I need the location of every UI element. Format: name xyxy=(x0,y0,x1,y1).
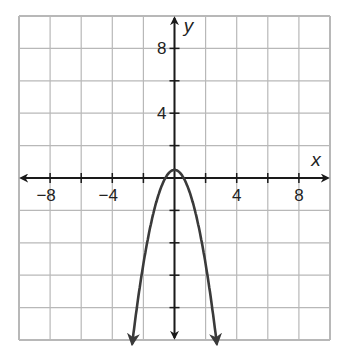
axis-labels: −8−44884xy xyxy=(36,15,322,205)
y-tick-label: 4 xyxy=(157,104,166,123)
x-tick-label: −4 xyxy=(99,186,118,205)
x-tick-label: 8 xyxy=(294,186,303,205)
x-axis-label: x xyxy=(310,149,322,170)
y-axis-label: y xyxy=(182,15,195,36)
y-tick-label: 8 xyxy=(157,39,166,58)
x-tick-label: 4 xyxy=(232,186,241,205)
x-tick-label: −8 xyxy=(36,186,55,205)
parabola-graph: −8−44884xy xyxy=(0,0,342,352)
axes xyxy=(21,18,328,338)
